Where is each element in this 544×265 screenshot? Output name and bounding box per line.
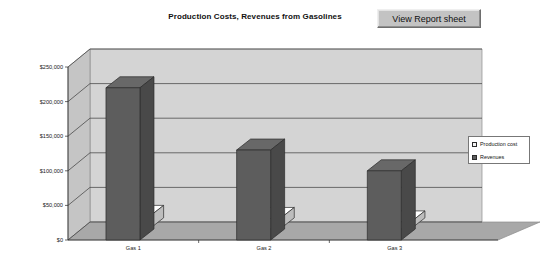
bar-revenues-2 bbox=[237, 139, 285, 240]
chart-container: Production Costs, Revenues from Gasoline… bbox=[0, 0, 544, 265]
legend-swatch-production-cost bbox=[472, 142, 477, 147]
bar-chart-plot: $0$50,000$100,000$150,000$200,000$250,00… bbox=[0, 0, 544, 265]
y-axis-tick-label: $250,000 bbox=[40, 64, 63, 70]
bar-revenues-1 bbox=[106, 77, 154, 240]
legend-swatch-revenues bbox=[472, 155, 477, 160]
legend-item-production-cost: Production cost bbox=[472, 138, 529, 150]
legend-label-revenues: Revenues bbox=[480, 154, 504, 160]
x-axis-category-label: Gas 3 bbox=[387, 245, 402, 251]
legend-label-production-cost: Production cost bbox=[480, 141, 517, 147]
y-axis-tick-label: $100,000 bbox=[40, 168, 63, 174]
y-axis-tick-label: $150,000 bbox=[40, 133, 63, 139]
legend-item-revenues: Revenues bbox=[472, 151, 529, 163]
chart-legend: Production cost Revenues bbox=[468, 136, 530, 164]
y-axis-tick-label: $50,000 bbox=[43, 202, 63, 208]
x-axis-category-label: Gas 1 bbox=[126, 245, 141, 251]
bar-revenues-3 bbox=[367, 160, 415, 240]
y-axis-tick-label: $0 bbox=[57, 237, 63, 243]
x-axis-category-label: Gas 2 bbox=[257, 245, 272, 251]
y-axis-tick-label: $200,000 bbox=[40, 99, 63, 105]
